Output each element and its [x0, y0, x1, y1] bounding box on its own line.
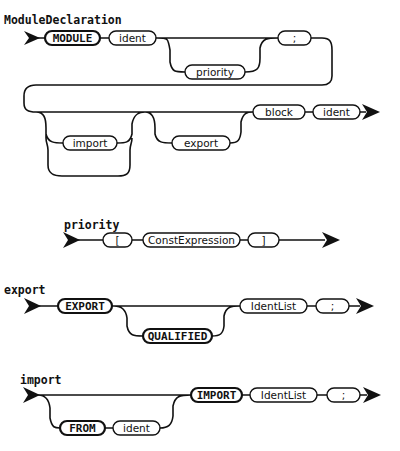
node-close-bracket: ]: [248, 233, 279, 247]
svg-text:]: ]: [261, 234, 265, 246]
svg-text:;: ;: [342, 389, 346, 401]
diagram-import: import FROM ident IMPORT IdentList ;: [20, 373, 381, 435]
node-export-keyword: EXPORT: [58, 299, 112, 313]
svg-text:FROM: FROM: [69, 422, 96, 435]
syntax-diagrams: ModuleDeclaration MODULE ident priority …: [0, 0, 400, 451]
svg-text:IMPORT: IMPORT: [197, 389, 237, 402]
node-priority: priority: [185, 65, 245, 79]
node-module: MODULE: [45, 31, 100, 45]
node-ident-end: ident: [313, 105, 360, 119]
diagram-export: export EXPORT QUALIFIED IdentList ;: [4, 283, 374, 343]
node-semicolon: ;: [278, 31, 311, 45]
svg-text:;: ;: [331, 300, 335, 312]
node-block: block: [253, 105, 305, 119]
diagram-title: priority: [64, 218, 119, 232]
svg-text:EXPORT: EXPORT: [65, 300, 105, 313]
node-from: FROM: [60, 421, 105, 435]
svg-text:IdentList: IdentList: [261, 389, 306, 401]
svg-text:block: block: [265, 106, 294, 118]
node-import-keyword: IMPORT: [191, 388, 242, 402]
node-semicolon: ;: [316, 299, 349, 313]
node-ident: ident: [109, 31, 156, 45]
diagram-title: import: [20, 373, 62, 387]
node-export: export: [172, 136, 230, 150]
svg-text:ConstExpression: ConstExpression: [148, 234, 235, 246]
svg-text:MODULE: MODULE: [53, 32, 93, 45]
node-ident-list: IdentList: [240, 299, 307, 313]
svg-text:import: import: [73, 137, 108, 149]
svg-text:ident: ident: [323, 106, 350, 118]
diagram-priority: priority [ ConstExpression ]: [63, 218, 340, 248]
diagram-title: ModuleDeclaration: [4, 13, 122, 27]
svg-text:ident: ident: [123, 422, 150, 434]
svg-text:;: ;: [293, 32, 297, 44]
node-open-bracket: [: [103, 233, 132, 247]
svg-text:QUALIFIED: QUALIFIED: [148, 330, 208, 343]
diagram-title: export: [4, 283, 46, 297]
svg-text:IdentList: IdentList: [251, 300, 296, 312]
node-semicolon: ;: [327, 388, 360, 402]
svg-text:[: [: [115, 234, 119, 246]
node-const-expression: ConstExpression: [143, 233, 240, 247]
svg-text:ident: ident: [119, 32, 146, 44]
svg-text:priority: priority: [196, 66, 234, 78]
node-ident-list: IdentList: [250, 388, 317, 402]
node-qualified: QUALIFIED: [143, 329, 212, 343]
node-ident: ident: [113, 421, 160, 435]
svg-text:export: export: [184, 137, 218, 149]
diagram-module-declaration: ModuleDeclaration MODULE ident priority …: [4, 13, 380, 176]
node-import: import: [63, 136, 117, 150]
